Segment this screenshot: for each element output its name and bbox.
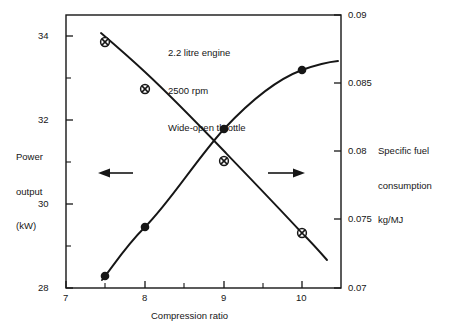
annotation-line-3: Wide-open throttle (168, 122, 246, 135)
left-axis-title: Power output (kW) (16, 128, 43, 255)
y-right-tick-label-0.075: 0.075 (348, 213, 372, 224)
y-left-tick-label-30: 30 (38, 198, 49, 209)
x-tick-label-9: 9 (221, 292, 226, 303)
annotation-line-2: 2500 rpm (168, 85, 246, 98)
left-axis-title-line-3: (kW) (16, 220, 43, 232)
chart-figure: 2.2 litre engine 2500 rpm Wide-open thro… (0, 0, 452, 331)
y-right-tick-label-0.08: 0.08 (348, 145, 367, 156)
right-axis-title-line-2: consumption (378, 180, 432, 192)
y-left-tick-label-28: 28 (38, 282, 49, 293)
right-axis-title-line-1: Specific fuel (378, 145, 432, 157)
y-right-tick-label-0.09: 0.09 (348, 9, 367, 20)
x-tick-label-10: 10 (296, 292, 307, 303)
left-axis-title-line-1: Power (16, 151, 43, 163)
y-right-tick-label-0.085: 0.085 (348, 77, 372, 88)
x-axis-title: Compression ratio (151, 310, 228, 322)
y-right-tick-label-0.07: 0.07 (348, 282, 367, 293)
right-axis-title: Specific fuel consumption kg/MJ (378, 122, 432, 249)
y-left-tick-label-32: 32 (38, 114, 49, 125)
y-left-tick-label-34: 34 (38, 30, 49, 41)
left-axis-title-line-2: output (16, 186, 43, 198)
annotation-line-1: 2.2 litre engine (168, 47, 246, 60)
x-tick-label-7: 7 (63, 292, 68, 303)
x-tick-label-8: 8 (142, 292, 147, 303)
chart-annotation: 2.2 litre engine 2500 rpm Wide-open thro… (168, 22, 246, 160)
right-axis-title-line-3: kg/MJ (378, 214, 432, 226)
